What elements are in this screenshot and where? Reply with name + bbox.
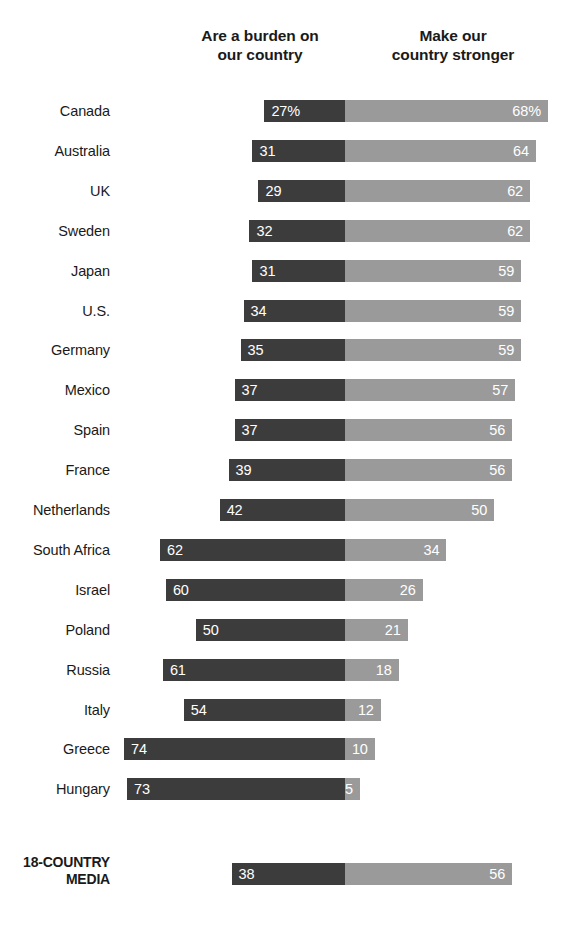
summary-label-line2: MEDIA: [0, 871, 110, 888]
bar-value-stronger: 64: [513, 140, 529, 162]
bar-segment-stronger: 5: [345, 778, 360, 800]
bar-segment-burden: 60: [166, 579, 345, 601]
bar-value-stronger: 10: [352, 738, 368, 760]
chart-row: Greece7410: [0, 737, 567, 761]
bar-value-burden: 29: [265, 180, 281, 202]
bar-segment-burden: 31: [252, 140, 345, 162]
bar-value-burden: 35: [248, 339, 264, 361]
bar-value-stronger: 59: [498, 339, 514, 361]
row-label-australia: Australia: [0, 139, 110, 163]
chart-row: Japan3159: [0, 259, 567, 283]
bar-value-burden: 32: [256, 220, 272, 242]
bar-segment-stronger: 10: [345, 738, 375, 760]
bar-segment-stronger: 56: [345, 459, 512, 481]
bar-value-stronger: 5: [345, 778, 353, 800]
bar-value-burden: 37: [242, 419, 258, 441]
bar-value-burden: 31: [259, 260, 275, 282]
bar-value-stronger: 59: [498, 260, 514, 282]
bar-value-burden: 61: [170, 659, 186, 681]
bar-value-burden: 74: [131, 738, 147, 760]
bar-value-burden: 54: [191, 699, 207, 721]
bar-segment-burden: 38: [232, 863, 345, 885]
bar-segment-burden: 54: [184, 699, 345, 721]
bar-value-stronger: 18: [376, 659, 392, 681]
bar-segment-burden: 35: [241, 339, 345, 361]
bar-segment-stronger: 56: [345, 863, 512, 885]
chart-row: Israel6026: [0, 578, 567, 602]
bar-segment-burden: 27%: [264, 100, 345, 122]
bar-value-stronger: 62: [507, 180, 523, 202]
bar-value-burden: 60: [173, 579, 189, 601]
chart-row: Italy5412: [0, 698, 567, 722]
chart-row: Australia3164: [0, 139, 567, 163]
bar-value-stronger: 56: [489, 419, 505, 441]
bar-value-stronger: 56: [489, 863, 505, 885]
bar-value-burden: 62: [167, 539, 183, 561]
summary-row-label: 18-COUNTRYMEDIA: [0, 854, 110, 894]
bar-segment-stronger: 21: [345, 619, 408, 641]
bar-value-stronger: 12: [358, 699, 374, 721]
bar-segment-burden: 50: [196, 619, 345, 641]
row-label-u-s: U.S.: [0, 299, 110, 323]
bar-segment-stronger: 34: [345, 539, 446, 561]
bar-segment-burden: 37: [235, 419, 345, 441]
bar-value-stronger: 21: [385, 619, 401, 641]
bar-value-stronger: 57: [492, 379, 508, 401]
row-label-france: France: [0, 458, 110, 482]
row-label-russia: Russia: [0, 658, 110, 682]
bar-value-stronger: 26: [400, 579, 416, 601]
bar-segment-stronger: 56: [345, 419, 512, 441]
bar-segment-burden: 42: [220, 499, 345, 521]
bar-segment-stronger: 57: [345, 379, 515, 401]
bar-value-burden: 27%: [271, 100, 300, 122]
chart-row: Germany3559: [0, 338, 567, 362]
row-label-sweden: Sweden: [0, 219, 110, 243]
bar-segment-burden: 29: [258, 180, 345, 202]
row-label-hungary: Hungary: [0, 777, 110, 801]
bar-value-burden: 42: [227, 499, 243, 521]
bar-value-stronger: 50: [471, 499, 487, 521]
bar-segment-burden: 34: [244, 300, 345, 322]
bar-value-burden: 38: [239, 863, 255, 885]
bar-segment-stronger: 68%: [345, 100, 548, 122]
summary-row: 18-COUNTRYMEDIA3856: [0, 862, 567, 886]
row-label-spain: Spain: [0, 418, 110, 442]
bar-segment-stronger: 50: [345, 499, 494, 521]
chart-row: Canada27%68%: [0, 99, 567, 123]
bar-segment-burden: 74: [124, 738, 345, 760]
bar-segment-stronger: 64: [345, 140, 536, 162]
row-label-south-africa: South Africa: [0, 538, 110, 562]
chart-row: UK2962: [0, 179, 567, 203]
chart-row: Sweden3262: [0, 219, 567, 243]
row-label-greece: Greece: [0, 737, 110, 761]
bar-segment-burden: 32: [249, 220, 345, 242]
diverging-bar-chart: Are a burden on our country Make our cou…: [0, 0, 567, 929]
bar-value-burden: 37: [242, 379, 258, 401]
bar-segment-stronger: 12: [345, 699, 381, 721]
chart-row: France3956: [0, 458, 567, 482]
bar-segment-burden: 39: [229, 459, 345, 481]
bar-segment-stronger: 26: [345, 579, 423, 601]
bar-segment-burden: 73: [127, 778, 345, 800]
row-label-netherlands: Netherlands: [0, 498, 110, 522]
bar-value-burden: 73: [134, 778, 150, 800]
bar-value-stronger: 59: [498, 300, 514, 322]
row-label-canada: Canada: [0, 99, 110, 123]
row-label-mexico: Mexico: [0, 378, 110, 402]
bar-segment-burden: 37: [235, 379, 345, 401]
bar-value-stronger: 56: [489, 459, 505, 481]
bar-segment-burden: 62: [160, 539, 345, 561]
bar-value-stronger: 68%: [512, 100, 541, 122]
chart-row: Spain3756: [0, 418, 567, 442]
bar-segment-stronger: 18: [345, 659, 399, 681]
bar-segment-stronger: 59: [345, 339, 521, 361]
chart-row: Mexico3757: [0, 378, 567, 402]
bar-value-burden: 39: [236, 459, 252, 481]
bar-value-burden: 50: [203, 619, 219, 641]
bar-segment-burden: 61: [163, 659, 345, 681]
row-label-germany: Germany: [0, 338, 110, 362]
bar-value-stronger: 34: [424, 539, 440, 561]
bar-value-burden: 34: [251, 300, 267, 322]
bar-value-stronger: 62: [507, 220, 523, 242]
chart-row: Russia6118: [0, 658, 567, 682]
